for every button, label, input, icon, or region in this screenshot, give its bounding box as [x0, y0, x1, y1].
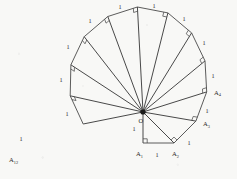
right-angle-mark-a8	[133, 8, 137, 12]
unit-label-14: 1	[19, 135, 22, 142]
spoke-o-to-a8	[137, 7, 143, 112]
spoke-o-to-a7	[143, 13, 168, 112]
spoke-o-to-a6	[143, 33, 192, 112]
spoke-o-to-a13	[83, 112, 143, 124]
unit-edge-a5-a6	[192, 33, 205, 61]
vertex-label-a3: A3	[203, 120, 210, 129]
unit-label-11: 1	[66, 43, 69, 50]
unit-label-3: 1	[187, 139, 190, 146]
right-angle-mark-a1	[143, 139, 147, 143]
right-angle-mark-a10	[82, 40, 86, 44]
unit-edge-a4-a5	[205, 61, 207, 92]
center-label-o: O	[139, 117, 144, 124]
unit-label-8: 1	[152, 2, 155, 9]
center-point-o	[140, 109, 145, 114]
vertex-label-a12: A12	[9, 156, 18, 165]
center-dot-o	[140, 109, 145, 114]
unit-edge-a8-a9	[108, 7, 138, 17]
vertex-label-a1: A1	[136, 150, 143, 159]
spoke-o-to-a4	[143, 92, 207, 112]
unit-label-5: 1	[211, 72, 214, 79]
right-angle-mark-a11	[71, 67, 75, 71]
center-text-o: O	[139, 117, 144, 124]
unit-label-4: 1	[205, 107, 208, 114]
right-angle-mark-a2	[171, 137, 177, 140]
unit-label-2: 1	[155, 151, 158, 158]
spoke-o-to-a11	[71, 65, 143, 112]
unit-label-10: 1	[88, 17, 91, 24]
unit-edge-a6-a7	[168, 13, 192, 33]
unit-label-13: 1	[65, 110, 68, 117]
unit-edge-a11-a12	[70, 65, 71, 96]
vertex-label-a4: A4	[214, 89, 222, 98]
unit-label-1: 1	[132, 125, 135, 132]
spiral-of-theodorus-figure: 11111111111111 A1A2A3A4A12 O	[0, 0, 237, 179]
unit-label-7: 1	[182, 15, 185, 22]
unit-label-12: 1	[59, 76, 62, 83]
spoke-o-to-a9	[108, 17, 143, 113]
unit-label-6: 1	[202, 39, 205, 46]
unit-edge-a10-a11	[71, 37, 84, 65]
unit-label-9: 1	[118, 3, 121, 10]
unit-length-labels: 11111111111111	[19, 2, 214, 159]
unit-edge-a2-a3	[174, 121, 196, 143]
vertex-label-a2: A2	[172, 150, 179, 159]
spoke-o-to-a5	[143, 61, 205, 112]
